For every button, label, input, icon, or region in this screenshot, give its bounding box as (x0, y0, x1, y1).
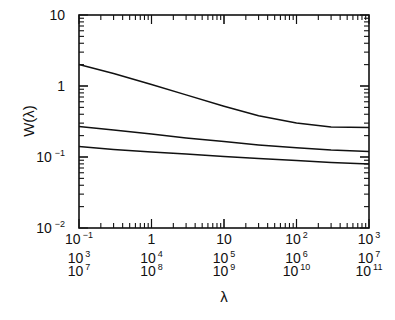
x-tick-label: 1 (148, 231, 156, 247)
y-tick-label: 10−2 (36, 219, 65, 236)
axis-labels: 10110−110−210−11101021031031041051061071… (20, 7, 382, 305)
y-axis-title: W(λ) (20, 105, 37, 137)
curve-2 (79, 126, 369, 151)
x-tick-label: 10−1 (65, 230, 93, 247)
x-tick-label: 107 (68, 262, 91, 279)
x-axis-title: λ (220, 288, 228, 305)
x-tick-label: 109 (213, 262, 236, 279)
chart: 10110−110−210−11101021031031041051061071… (0, 0, 395, 320)
x-tick-label: 103 (358, 230, 381, 247)
y-tick-label: 10 (49, 7, 65, 23)
plot-frame (79, 15, 369, 228)
x-tick-label: 108 (140, 262, 163, 279)
axis-ticks (79, 15, 369, 228)
x-tick-label: 1010 (283, 262, 311, 279)
y-tick-label: 1 (57, 78, 65, 94)
x-tick-label: 1011 (356, 262, 383, 279)
data-curves (79, 65, 369, 164)
y-tick-label: 10−1 (36, 148, 65, 165)
x-tick-label: 102 (285, 230, 308, 247)
x-tick-label: 10 (216, 231, 232, 247)
curve-1 (79, 65, 369, 128)
